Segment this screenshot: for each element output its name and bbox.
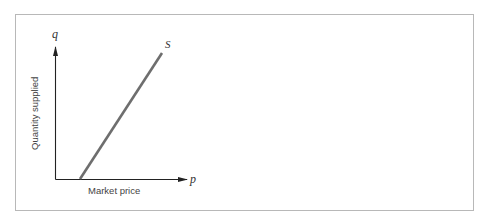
- x-axis-symbol: p: [189, 172, 196, 186]
- supply-curve-label: S: [165, 38, 171, 50]
- x-axis-label: Market price: [88, 185, 140, 196]
- y-axis-label: Quantity supplied: [29, 77, 40, 150]
- supply-diagram: q p S Market price Quantity supplied: [0, 0, 487, 221]
- supply-curve: [80, 53, 162, 179]
- y-axis-symbol: q: [52, 27, 58, 41]
